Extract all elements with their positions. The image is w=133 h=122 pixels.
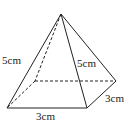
label-slant-front: 5cm xyxy=(77,57,96,69)
hidden-edge-base-left xyxy=(7,81,35,108)
hidden-edge-apex-back-left xyxy=(35,14,61,81)
edge-apex-back-right xyxy=(61,14,116,81)
pyramid-diagram: 5cm 5cm 3cm 3cm xyxy=(0,0,133,122)
label-base-right: 3cm xyxy=(105,92,124,104)
label-slant-left: 5cm xyxy=(2,54,21,66)
label-base-front: 3cm xyxy=(36,110,55,122)
